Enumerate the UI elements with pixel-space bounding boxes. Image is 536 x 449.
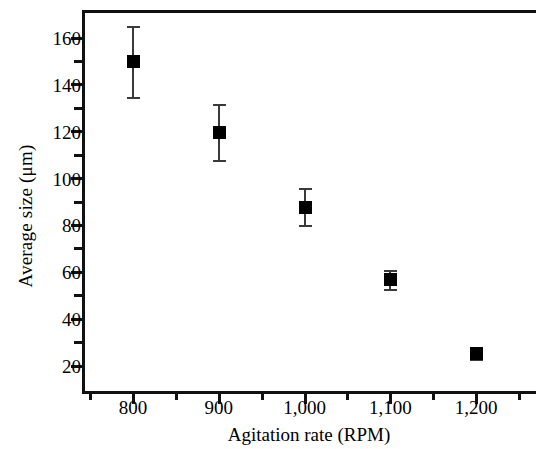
- plot-frame-top: [82, 10, 536, 13]
- x-tick-minor: [89, 391, 92, 400]
- x-tick-label: 1,100: [350, 398, 430, 417]
- error-bar-cap-upper: [213, 104, 226, 106]
- y-tick-label: 160: [21, 29, 81, 48]
- x-tick-minor: [518, 391, 521, 400]
- y-tick-minor: [74, 294, 85, 297]
- error-bar-cap-upper: [127, 26, 140, 28]
- y-tick-label: 100: [21, 169, 81, 188]
- plot-frame-bottom: [82, 391, 536, 394]
- y-tick-label: 120: [21, 122, 81, 141]
- x-tick-minor: [432, 391, 435, 400]
- x-tick-label: 1,200: [436, 398, 516, 417]
- y-tick-minor: [74, 201, 85, 204]
- y-tick-minor: [74, 154, 85, 157]
- y-tick-label: 40: [21, 310, 81, 329]
- y-tick-minor: [74, 341, 85, 344]
- y-tick-minor: [74, 60, 85, 63]
- data-point-marker: [384, 273, 397, 286]
- y-tick-label: 80: [21, 216, 81, 235]
- data-point-marker: [127, 55, 140, 68]
- y-tick-label: 140: [21, 75, 81, 94]
- error-bar-cap-lower: [299, 225, 312, 227]
- error-bar-cap-lower: [127, 97, 140, 99]
- data-point-marker: [299, 201, 312, 214]
- x-tick-minor: [175, 391, 178, 400]
- x-tick-minor: [261, 391, 264, 400]
- y-tick-minor: [74, 107, 85, 110]
- x-tick-label: 900: [179, 398, 259, 417]
- y-tick-label: 60: [21, 263, 81, 282]
- data-point-marker: [470, 347, 483, 360]
- error-bar-cap-lower: [384, 289, 397, 291]
- scatter-plot-figure: Average size (μm) Agitation rate (RPM) 1…: [0, 0, 536, 449]
- error-bar-cap-upper: [299, 188, 312, 190]
- error-bar-cap-lower: [213, 160, 226, 162]
- error-bar-cap-upper: [384, 270, 397, 272]
- x-tick-label: 1,000: [265, 398, 345, 417]
- x-tick-label: 800: [93, 398, 173, 417]
- data-point-marker: [213, 126, 226, 139]
- x-axis-title: Agitation rate (RPM): [82, 424, 536, 446]
- y-tick-minor: [74, 247, 85, 250]
- y-tick-label: 20: [21, 357, 81, 376]
- x-tick-minor: [346, 391, 349, 400]
